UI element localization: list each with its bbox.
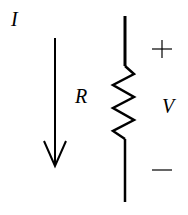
plus-sign-icon xyxy=(152,40,172,58)
resistor-diagram: I R V xyxy=(0,0,188,215)
resistance-label: R xyxy=(75,86,87,106)
resistor-zigzag-icon xyxy=(113,66,134,139)
circuit-drawing xyxy=(0,0,188,215)
current-label: I xyxy=(11,9,18,29)
current-arrow-icon xyxy=(44,38,66,166)
voltage-label: V xyxy=(162,96,174,116)
